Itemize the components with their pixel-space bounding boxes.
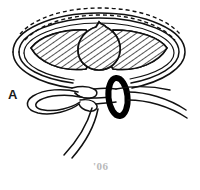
corner-note: '06 [93,161,109,172]
figure-canvas: A '06 [0,0,200,190]
loop-label-a: A [8,88,17,101]
cord-tail-left [64,108,98,158]
free-loop [27,90,80,114]
black-ring [107,77,130,117]
